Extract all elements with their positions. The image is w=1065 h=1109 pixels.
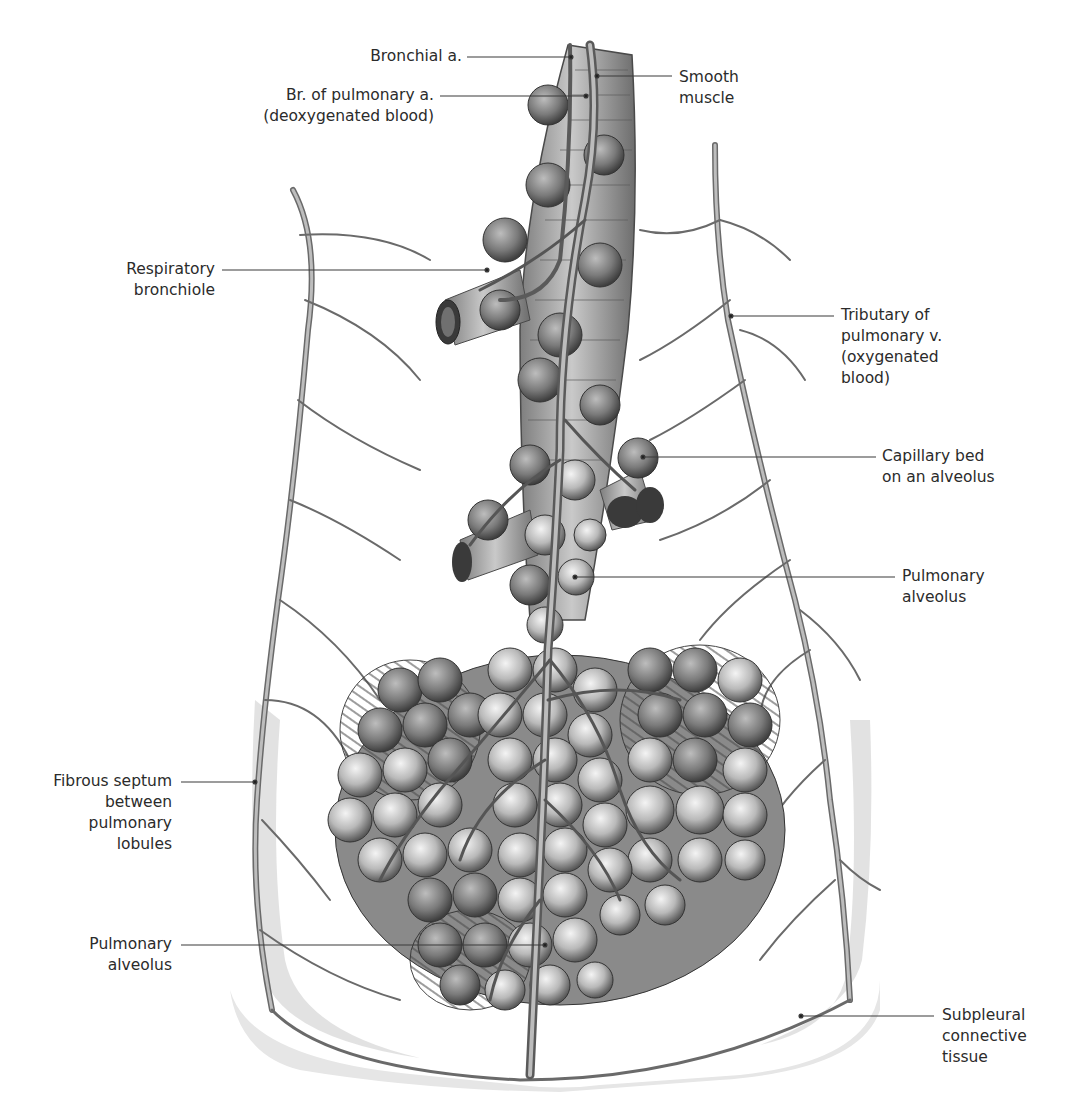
label-fibrous-septum: Fibrous septum between pulmonary lobules: [20, 771, 172, 855]
label-pulmonary-alveolus-lower: Pulmonary alveolus: [60, 934, 172, 976]
label-subpleural-connective-tissue: Subpleural connective tissue: [942, 1005, 1062, 1068]
label-pulmonary-vein-tributary: Tributary of pulmonary v. (oxygenated bl…: [841, 305, 1001, 389]
label-respiratory-bronchiole: Respiratory bronchiole: [100, 259, 215, 301]
label-pulmonary-artery-branch: Br. of pulmonary a. (deoxygenated blood): [240, 85, 434, 127]
label-smooth-muscle: Smooth muscle: [679, 67, 799, 109]
alveolar-cluster: [328, 645, 785, 1010]
label-bronchial-artery: Bronchial a.: [304, 46, 462, 67]
label-capillary-bed: Capillary bed on an alveolus: [882, 446, 1052, 488]
label-pulmonary-alveolus-upper: Pulmonary alveolus: [902, 566, 1022, 608]
